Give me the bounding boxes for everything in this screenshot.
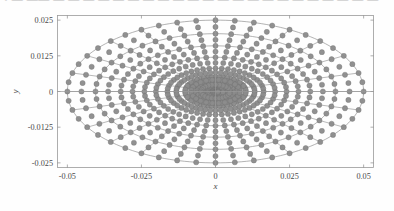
mesh-centre-node-5-3 [263,57,268,62]
mesh-centre-node-5-2 [279,65,284,70]
mesh-midedge-spoke-6-1 [317,76,322,81]
mesh-midedge-ring-8-13 [76,116,81,121]
mesh-node-r8-a10 [85,53,90,58]
mesh-midedge-spoke-3-7 [203,71,208,76]
mesh-midedge-ring-4-12 [165,92,170,97]
mesh-centre-node-5-12 [131,94,136,99]
mesh-node-r7-a17 [182,145,187,150]
mesh-centre-node-4-4 [236,62,241,67]
mesh-centre-node-2-17 [210,101,215,106]
mesh-midedge-spoke-4-16 [183,114,188,119]
y-tick-label-2: 0 [49,88,53,97]
mesh-midedge-ring-8-7 [156,23,161,28]
mesh-midedge-ring-8-15 [123,146,128,151]
mesh-centre-node-7-4 [264,29,269,34]
mesh-node-r5-a7 [195,56,200,61]
mesh-centre-node-4-7 [190,62,195,67]
x-axis-title: x [213,181,218,191]
mesh-midedge-ring-7-10 [102,67,107,72]
mesh-midedge-spoke-6-22 [306,115,311,120]
mesh-node-r8-a4 [287,27,292,32]
mesh-midedge-spoke-5-19 [234,128,239,133]
mesh-midedge-spoke-6-21 [289,125,294,130]
mesh-node-r8-a7 [175,20,180,25]
figure-page: • — —— — — — — — — — — — — — — — — — — —… [0,0,394,211]
mesh-node-r6-a5 [237,45,242,50]
mesh-midedge-spoke-4-7 [197,61,202,66]
mesh-node-r5-a3 [263,65,268,70]
mesh-midedge-spoke-7-21 [308,135,313,140]
mesh-centre-node-6-7 [172,41,177,46]
mesh-centre-node-7-22 [337,114,342,119]
mesh-midedge-ring-7-18 [229,146,234,151]
mesh-midedge-ring-4-14 [175,103,180,108]
mesh-midedge-spoke-6-7 [185,39,190,44]
mesh-centre-node-6-21 [298,120,303,125]
mesh-centre-node-5-21 [279,113,284,118]
mesh-centre-node-7-23 [346,97,351,102]
mesh-node-r8-a22 [341,125,346,130]
mesh-node-r5-a16 [177,119,182,124]
mesh-midedge-spoke-6-13 [109,102,114,107]
mesh-centre-node-7-18 [230,153,235,158]
mesh-midedge-ring-6-4 [249,47,254,52]
mesh-centre-node-6-6 [199,38,204,43]
mesh-midedge-spoke-7-16 [146,145,151,150]
mesh-centre-node-3-21 [244,100,249,105]
mesh-midedge-ring-8-8 [123,32,128,37]
mesh-centre-node-7-17 [195,153,200,158]
mesh-midedge-ring-6-3 [271,53,276,58]
mesh-node-r8-a19 [251,158,256,163]
mesh-centre-node-7-21 [319,128,324,133]
mesh-midedge-ring-5-1 [279,76,284,81]
mesh-centre-node-6-16 [172,137,177,142]
mesh-node-r7-a5 [244,33,249,38]
mesh-midedge-ring-8-19 [270,155,275,160]
mesh-node-r8-a2 [341,53,346,58]
mesh-centre-node-3-18 [218,108,223,113]
mesh-midedge-ring-7-13 [102,111,107,116]
mesh-midedge-ring-4-23 [261,92,266,97]
mesh-midedge-ring-6-7 [177,47,182,52]
mesh-centre-node-6-0 [319,82,324,87]
mesh-node-r8-a1 [356,70,361,75]
mesh-midedge-ring-7-3 [286,43,291,48]
mesh-midedge-spoke-5-16 [171,124,176,129]
mesh-midedge-spoke-5-13 [133,99,138,104]
mesh-midedge-spoke-4-9 [171,69,176,74]
mesh-centre-node-6-8 [148,48,153,53]
mesh-midedge-ring-4-1 [257,80,262,85]
mesh-midedge-ring-4-21 [251,103,256,108]
mesh-node-r7-a4 [273,39,278,44]
mesh-midedge-ring-5-10 [147,76,152,81]
mesh-midedge-spoke-5-3 [272,61,277,66]
mesh-midedge-ring-6-19 [249,131,254,136]
mesh-midedge-ring-7-12 [94,96,99,101]
mesh-centre-node-5-9 [147,65,152,70]
mesh-midedge-ring-5-3 [256,62,261,67]
mesh-midedge-ring-7-0 [332,81,337,86]
mesh-midedge-ring-5-20 [256,116,261,121]
mesh-midedge-spoke-7-1 [342,72,347,77]
y-tick-label-3: -0.0125 [28,123,53,132]
mesh-centre-node-7-15 [131,140,136,145]
mesh-centre-node-3-7 [198,71,203,76]
mesh-midedge-ring-8-3 [303,32,308,37]
mesh-node-r6-a22 [295,112,300,117]
mesh-midedge-ring-8-11 [66,80,71,85]
mesh-centre-node-6-20 [278,130,283,135]
mesh-midedge-spoke-4-4 [243,64,248,69]
y-tick-label-1: 0.0125 [30,52,53,61]
mesh-midedge-spoke-6-5 [241,39,246,44]
mesh-centre-node-4-15 [177,112,182,117]
mesh-midedge-ring-6-18 [225,134,230,139]
mesh-node-r7-a21 [298,130,303,135]
mesh-centre-node-7-16 [162,149,167,154]
mesh-node-r6-a3 [280,57,285,62]
mesh-midedge-ring-6-10 [125,71,130,76]
mesh-node-r5-a19 [231,122,236,127]
mesh-midedge-spoke-3-17 [203,107,208,112]
mesh-midedge-spoke-4-21 [255,109,260,114]
mesh-midedge-spoke-4-15 [171,109,176,114]
mesh-centre-node-5-14 [147,113,152,118]
